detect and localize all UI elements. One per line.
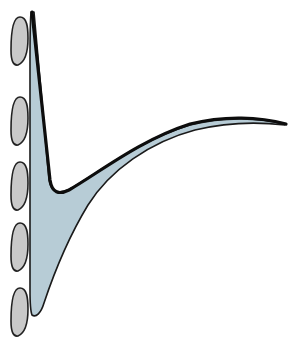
diagram-canvas: [0, 0, 305, 342]
oval-segment-3: [11, 162, 28, 210]
oval-segment-2: [11, 97, 28, 145]
diagram-svg: [0, 0, 305, 342]
oval-segment-4: [11, 223, 28, 271]
oval-segment-1: [11, 17, 28, 65]
oval-segment-5: [11, 288, 28, 336]
outer-edge-outline: [32, 12, 286, 193]
main-structure: [30, 12, 285, 316]
oval-column: [11, 17, 28, 336]
